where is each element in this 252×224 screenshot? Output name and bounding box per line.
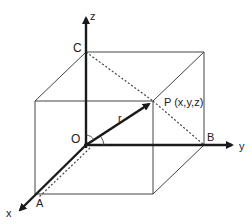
vector-r-label: r bbox=[118, 112, 122, 124]
x-axis-label: x bbox=[6, 207, 12, 219]
position-vector-r bbox=[86, 104, 149, 145]
point-P-label: P (x,y,z) bbox=[164, 96, 203, 108]
point-B-label: B bbox=[207, 131, 214, 143]
axes bbox=[20, 18, 232, 210]
point-C-label: C bbox=[73, 41, 82, 55]
x-axis bbox=[20, 143, 88, 210]
coordinate-cube-diagram: z y x C O A B P (x,y,z) r bbox=[0, 0, 252, 224]
y-axis-label: y bbox=[239, 140, 245, 152]
point-A-label: A bbox=[36, 197, 44, 209]
z-axis-label: z bbox=[90, 10, 96, 22]
point-O-label: O bbox=[71, 132, 80, 146]
